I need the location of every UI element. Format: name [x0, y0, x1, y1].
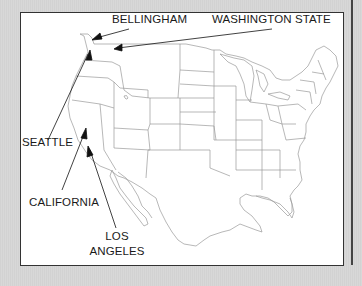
baja-california [110, 170, 152, 226]
florida [256, 196, 294, 218]
seattle-arrowhead [86, 50, 92, 60]
los-angeles-arrowhead [87, 146, 93, 157]
seattle-leader [48, 54, 88, 140]
washington-arrowhead [114, 44, 122, 51]
label-california: CALIFORNIA [29, 196, 99, 209]
great-salt-lake [124, 95, 128, 99]
bellingham-arrowhead [92, 33, 102, 40]
great-lakes [220, 54, 290, 102]
label-bellingham: BELLINGHAM [112, 13, 187, 26]
us-coastline [68, 34, 338, 246]
label-washington-state: WASHINGTON STATE [212, 13, 331, 26]
state-borders [72, 44, 326, 190]
label-angeles: ANGELES [89, 245, 145, 258]
california-arrowhead [81, 128, 87, 139]
los-angeles-leader [90, 150, 116, 228]
washington-leader [118, 29, 272, 48]
label-los: LOS [102, 230, 132, 243]
label-seattle: SEATTLE [22, 136, 73, 149]
